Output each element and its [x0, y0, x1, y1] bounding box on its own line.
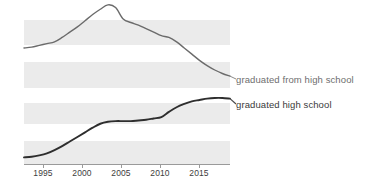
band-row-2 [24, 62, 230, 88]
x-tick-label-1995: 1995 [28, 168, 58, 178]
legend-label-graduated-from-high-school[interactable]: graduated from high school [236, 74, 354, 85]
chart-canvas [0, 0, 379, 196]
x-tick-label-2005: 2005 [106, 168, 136, 178]
legend-label-graduated-high-school[interactable]: graduated high school [236, 99, 332, 110]
x-tick-label-2010: 2010 [145, 168, 175, 178]
ngram-chart-figure: graduated from high school graduated hig… [0, 0, 379, 196]
band-row-4 [24, 141, 230, 164]
x-tick-label-2015: 2015 [184, 168, 214, 178]
x-tick-label-2000: 2000 [67, 168, 97, 178]
